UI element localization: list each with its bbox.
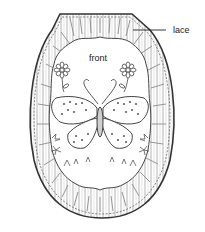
front-label: front [89,53,107,63]
diagram-canvas: lace front [0,0,205,232]
lace-label: lace [173,25,190,35]
